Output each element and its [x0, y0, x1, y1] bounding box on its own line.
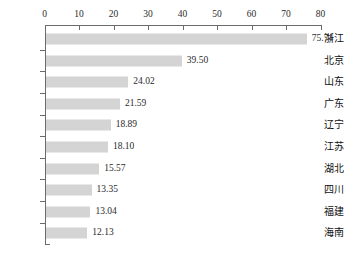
x-axis-tick-label: 10 [74, 10, 84, 20]
category-label: 北京 [305, 56, 344, 66]
bar [46, 55, 182, 66]
x-axis-tick-label: 50 [212, 10, 222, 20]
x-axis-tick [286, 25, 287, 30]
bar-value-label: 75.74 [312, 34, 333, 44]
bar-value-label: 12.13 [92, 229, 113, 239]
bar-value-label: 18.89 [116, 121, 137, 131]
bar-value-label: 21.59 [125, 99, 146, 109]
bar-value-label: 15.57 [104, 164, 125, 174]
category-label: 山东 [305, 77, 344, 87]
category-label: 福建 [305, 207, 344, 217]
bar-value-label: 18.10 [113, 142, 134, 152]
bar [46, 98, 120, 109]
category-label: 四川 [305, 185, 344, 195]
y-axis-tick [40, 50, 45, 51]
category-label: 广东 [305, 99, 344, 109]
y-axis-tick [40, 93, 45, 94]
y-axis-tick [40, 223, 45, 224]
x-axis-tick [252, 25, 253, 30]
x-axis-tick-label: 70 [281, 10, 291, 20]
bar [46, 228, 88, 239]
bar [46, 120, 111, 131]
y-axis-tick [40, 136, 45, 137]
bar-chart: 01020304050607080浙江75.74北京39.50山东24.02广东… [0, 0, 344, 255]
y-axis-foot [45, 244, 50, 245]
x-axis-tick-label: 0 [42, 10, 47, 20]
bar [46, 163, 100, 174]
bar-value-label: 13.35 [97, 185, 118, 195]
category-label: 辽宁 [305, 120, 344, 130]
x-axis-tick [79, 25, 80, 30]
bar-value-label: 39.50 [187, 56, 208, 66]
y-axis-tick [40, 201, 45, 202]
bar [46, 142, 108, 153]
x-axis-tick-label: 20 [109, 10, 119, 20]
bar-value-label: 24.02 [133, 77, 154, 87]
x-axis-tick-label: 40 [178, 10, 188, 20]
x-axis-tick [114, 25, 115, 30]
y-axis-tick [40, 71, 45, 72]
x-axis-tick [183, 25, 184, 30]
bar [46, 34, 307, 45]
x-axis-tick [321, 25, 322, 30]
y-axis-tick [40, 158, 45, 159]
bar-value-label: 13.04 [95, 207, 116, 217]
bar [46, 77, 129, 88]
bar [46, 185, 92, 196]
x-axis-tick-label: 80 [316, 10, 326, 20]
category-label: 江苏 [305, 142, 344, 152]
y-axis-tick [40, 179, 45, 180]
x-axis-tick [217, 25, 218, 30]
y-axis-tick [40, 115, 45, 116]
category-label: 海南 [305, 228, 344, 238]
x-axis-tick [148, 25, 149, 30]
bar [46, 206, 91, 217]
x-axis-tick-label: 30 [143, 10, 153, 20]
category-label: 湖北 [305, 164, 344, 174]
x-axis-tick-label: 60 [247, 10, 257, 20]
